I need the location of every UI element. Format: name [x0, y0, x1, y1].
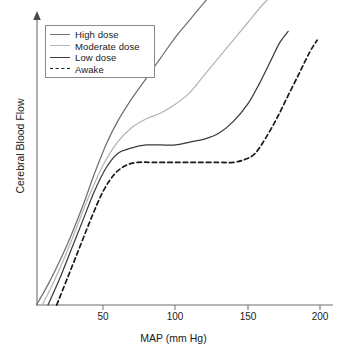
- x-tick-label-3: 200: [300, 311, 340, 322]
- legend-swatch-awake: [50, 64, 70, 74]
- series-line-awake: [57, 40, 317, 305]
- legend-item-high-dose: High dose: [50, 29, 150, 41]
- legend-item-low-dose: Low dose: [50, 52, 150, 64]
- x-tick-label-0: 50: [83, 311, 123, 322]
- legend-item-awake: Awake: [50, 64, 150, 76]
- x-tick-label-1: 100: [155, 311, 195, 322]
- legend-swatch-high-dose: [50, 30, 70, 40]
- chart-container: 50 100 150 200 MAP (mm Hg) Cerebral Bloo…: [0, 0, 347, 357]
- chart-legend: High dose Moderate dose Low dose Awake: [45, 25, 155, 78]
- legend-swatch-low-dose: [50, 53, 70, 63]
- legend-swatch-moderate-dose: [50, 41, 70, 51]
- x-tick-label-2: 150: [228, 311, 268, 322]
- legend-label-awake: Awake: [75, 64, 104, 76]
- legend-label-low-dose: Low dose: [75, 52, 116, 64]
- x-axis-title: MAP (mm Hg): [0, 332, 347, 344]
- y-axis-title: Cerebral Blood Flow: [14, 66, 26, 226]
- x-axis-ticks: [103, 305, 320, 310]
- legend-label-moderate-dose: Moderate dose: [75, 41, 140, 53]
- y-axis-arrow-icon: [33, 11, 41, 20]
- legend-item-moderate-dose: Moderate dose: [50, 41, 150, 53]
- legend-label-high-dose: High dose: [75, 29, 119, 41]
